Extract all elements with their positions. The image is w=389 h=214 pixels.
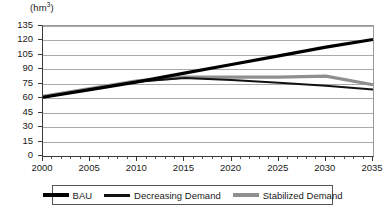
x-tick-mark-minor (249, 156, 250, 159)
x-tick-mark-minor (51, 156, 52, 159)
x-tick-label: 2020 (220, 162, 241, 173)
x-tick-label: 2015 (173, 162, 194, 173)
x-axis-labels: 20002005201020152020202520302035 (0, 162, 389, 176)
line-chart: (hm3) 0153045607590105120135 20002005201… (0, 0, 389, 214)
x-tick-mark-major (372, 156, 373, 161)
legend-item[interactable]: Decreasing Demand (104, 190, 221, 201)
x-tick-label: 2035 (361, 162, 382, 173)
x-tick-mark-minor (70, 156, 71, 159)
y-tick-label: 15 (22, 136, 33, 146)
x-tick-label: 2005 (79, 162, 100, 173)
x-tick-mark-major (325, 156, 326, 161)
x-tick-mark-minor (99, 156, 100, 159)
x-tick-mark-minor (315, 156, 316, 159)
x-axis-ticks (42, 156, 373, 161)
x-tick-label: 2030 (314, 162, 335, 173)
x-tick-mark-minor (334, 156, 335, 159)
x-tick-mark-major (183, 156, 184, 161)
series-line-bau (43, 39, 373, 97)
y-tick-label: 45 (22, 107, 33, 117)
x-tick-mark-minor (297, 156, 298, 159)
x-tick-label: 2025 (267, 162, 288, 173)
x-tick-mark-minor (108, 156, 109, 159)
x-tick-mark-minor (146, 156, 147, 159)
x-tick-mark-minor (155, 156, 156, 159)
x-tick-mark-minor (240, 156, 241, 159)
x-tick-mark-minor (353, 156, 354, 159)
x-tick-mark-minor (221, 156, 222, 159)
x-tick-mark-major (231, 156, 232, 161)
legend-label: Stabilized Demand (263, 190, 343, 201)
legend-swatch-icon (104, 194, 130, 197)
chart-legend: BAUDecreasing DemandStabilized Demand (52, 185, 333, 205)
x-tick-label: 2010 (126, 162, 147, 173)
legend-swatch-icon (233, 193, 259, 197)
legend-label: Decreasing Demand (134, 190, 221, 201)
y-tick-label: 75 (22, 78, 33, 88)
x-tick-label: 2000 (31, 162, 52, 173)
x-tick-mark-minor (287, 156, 288, 159)
y-tick-label: 120 (17, 34, 33, 44)
x-tick-mark-minor (61, 156, 62, 159)
y-tick-label: 0 (28, 150, 33, 160)
y-tick-label: 135 (17, 20, 33, 30)
y-tick-label: 30 (22, 121, 33, 131)
y-tick-label: 60 (22, 92, 33, 102)
x-tick-mark-minor (117, 156, 118, 159)
x-tick-mark-minor (363, 156, 364, 159)
x-tick-mark-minor (268, 156, 269, 159)
legend-label: BAU (73, 190, 93, 201)
y-axis-unit-close: ) (50, 2, 53, 13)
x-tick-mark-minor (193, 156, 194, 159)
x-tick-mark-minor (80, 156, 81, 159)
x-tick-mark-minor (212, 156, 213, 159)
x-tick-mark-major (89, 156, 90, 161)
x-tick-mark-major (42, 156, 43, 161)
x-tick-mark-minor (344, 156, 345, 159)
x-tick-mark-major (136, 156, 137, 161)
x-tick-mark-minor (165, 156, 166, 159)
y-tick-label: 105 (17, 49, 33, 59)
legend-swatch-icon (43, 193, 69, 197)
x-tick-mark-minor (306, 156, 307, 159)
series-layer (43, 26, 373, 156)
y-axis: 0153045607590105120135 (0, 0, 42, 214)
plot-area (42, 25, 374, 157)
x-tick-mark-minor (259, 156, 260, 159)
x-tick-mark-major (278, 156, 279, 161)
x-tick-mark-minor (174, 156, 175, 159)
legend-item[interactable]: Stabilized Demand (233, 190, 343, 201)
x-tick-mark-minor (127, 156, 128, 159)
y-tick-label: 90 (22, 63, 33, 73)
legend-item[interactable]: BAU (43, 190, 93, 201)
x-tick-mark-minor (202, 156, 203, 159)
